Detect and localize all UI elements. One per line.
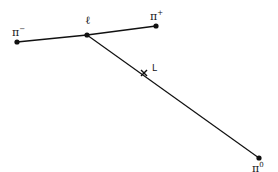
pi-zero-dot [256,155,261,160]
line-ell-to-pi-zero [87,35,259,158]
L-label: L [152,63,157,73]
ell-dot [84,32,89,37]
event-diagram: π− ℓ π+ L π0 [0,0,278,172]
pi-zero-label: π0 [252,161,264,172]
pi-plus-dot [153,23,158,28]
pi-plus-label: π+ [150,9,163,23]
pi-minus-dot [14,39,19,44]
line-pi-minus-to-ell [17,35,87,42]
line-ell-to-pi-plus [87,26,156,35]
ell-label: ℓ [85,14,90,27]
pi-minus-label: π− [12,25,25,39]
